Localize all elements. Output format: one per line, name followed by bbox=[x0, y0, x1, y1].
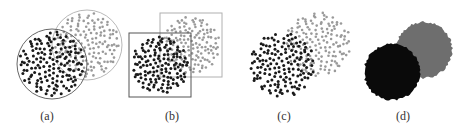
panel-c-graphic bbox=[250, 12, 351, 98]
dark-point-cloud bbox=[132, 36, 189, 94]
dark-point-cloud bbox=[250, 33, 315, 98]
panel-b-graphic bbox=[129, 13, 222, 97]
panel-label-c: (c) bbox=[277, 109, 290, 124]
light-point-cloud bbox=[286, 12, 351, 77]
light-point-cloud bbox=[163, 16, 220, 74]
panel-label-b: (b) bbox=[165, 109, 179, 124]
panel-a-graphic bbox=[17, 10, 122, 99]
panel-d-graphic bbox=[364, 21, 453, 100]
panel-label-d: (d) bbox=[396, 109, 410, 124]
panel-label-a: (a) bbox=[40, 109, 53, 124]
dark-point-cloud bbox=[19, 31, 84, 98]
